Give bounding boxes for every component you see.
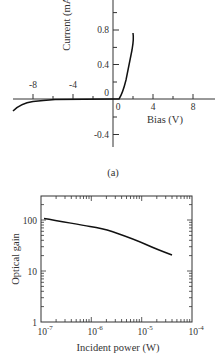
y-axis-label: Current (mA) [61, 0, 73, 51]
y-tick-label: 0.4 [97, 60, 109, 70]
x-ticks [56, 196, 190, 322]
x-tick-label: 0 [116, 102, 121, 112]
figure: -8 -4 0 4 8 0.8 0.4 0 -0.4 Current (mA) … [0, 0, 223, 355]
x-tick-label: 10 -4 [189, 324, 205, 337]
y-tick-label: 0 [104, 88, 109, 98]
gain-chart: 100 10 1 10 -7 10 -6 10 -5 10 -4 Optical… [10, 196, 204, 354]
svg-text:-4: -4 [198, 324, 204, 332]
y-tick-label: 0.8 [97, 25, 109, 35]
x-tick-label: -4 [69, 80, 77, 90]
x-axis-label: Bias (V) [147, 114, 183, 126]
x-tick-label: 10 -7 [38, 324, 54, 337]
y-tick-label: 10 [28, 267, 38, 277]
plot-frame [41, 196, 192, 322]
y-axis-label: Optical gain [10, 232, 21, 284]
y-ticks [113, 13, 119, 135]
svg-text:-5: -5 [147, 324, 153, 332]
x-tick-label: 4 [151, 102, 156, 112]
x-tick-label: 10 -6 [88, 324, 104, 337]
y-tick-label: 100 [23, 216, 38, 226]
y-tick-label: -0.4 [94, 130, 109, 140]
svg-text:-6: -6 [97, 324, 103, 332]
x-tick-label: -8 [29, 80, 37, 90]
iv-chart: -8 -4 0 4 8 0.8 0.4 0 -0.4 Current (mA) … [13, 0, 215, 179]
y-ticks [41, 205, 192, 307]
svg-text:10: 10 [189, 327, 199, 337]
x-axis-label: Incident power (W) [77, 342, 160, 354]
panel-label: (a) [107, 167, 119, 179]
x-tick-label: 10 -5 [138, 324, 154, 337]
gain-curve [44, 219, 172, 256]
svg-text:-7: -7 [47, 324, 53, 332]
svg-text:10: 10 [38, 327, 48, 337]
y-tick-label: 1 [32, 318, 37, 328]
x-tick-label: 8 [191, 102, 196, 112]
svg-text:10: 10 [138, 327, 148, 337]
svg-text:10: 10 [88, 327, 98, 337]
